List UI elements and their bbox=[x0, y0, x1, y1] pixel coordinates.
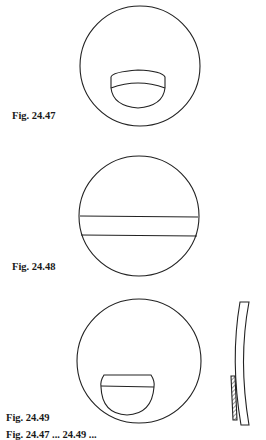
figure-label-24-47: Fig. 24.47 bbox=[12, 110, 55, 121]
figure-label-24-49: Fig. 24.49 bbox=[6, 412, 49, 423]
fig-24-49-drawing bbox=[77, 299, 201, 423]
fig-24-47-drawing bbox=[80, 6, 200, 126]
figure-label-24-48: Fig. 24.48 bbox=[12, 261, 55, 272]
side-profile-drawing bbox=[231, 302, 249, 425]
fig-24-48-drawing bbox=[79, 156, 199, 276]
cutoff-caption-text: Fig. 24.47 ... 24.49 ... bbox=[6, 429, 97, 440]
